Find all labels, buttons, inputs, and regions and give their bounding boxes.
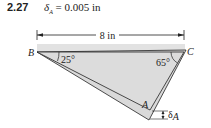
point-a-label: A [141, 99, 149, 110]
displacement-subscript: A [172, 111, 180, 122]
angle-c-label: 65° [156, 57, 170, 68]
dimension-label: 8 in [100, 30, 115, 41]
displacement-label: δA [168, 109, 180, 122]
triangle-diagram: 8 in B C A 25° 65° δA [0, 0, 211, 128]
angle-b-label: 25° [61, 54, 75, 65]
point-c-label: C [187, 46, 194, 57]
point-b-label: B [28, 47, 34, 58]
